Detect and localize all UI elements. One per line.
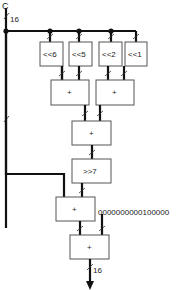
constant-label: 0000000000100000: [98, 208, 170, 217]
adder-1-label: +: [67, 88, 72, 97]
adder-4-label: +: [72, 205, 77, 214]
input-label: C: [2, 1, 9, 11]
shift-left-6-label: <<6: [43, 50, 57, 59]
adder-5-label: +: [87, 243, 92, 252]
shift-left-2-label: <<2: [102, 50, 116, 59]
output-width-label: 16: [93, 266, 102, 275]
shift-right-7-label: >>7: [83, 167, 97, 176]
datapath-diagram: C 16 <<6 <<5 <<2 <<1 + + + >>7 + + 00000…: [0, 0, 181, 290]
output-arrow-icon: [86, 281, 94, 290]
adder-3-label: +: [89, 129, 94, 138]
shift-left-5-label: <<5: [72, 50, 86, 59]
input-width-label: 16: [10, 15, 19, 24]
adder-2-label: +: [112, 88, 117, 97]
shift-left-1-label: <<1: [128, 50, 142, 59]
